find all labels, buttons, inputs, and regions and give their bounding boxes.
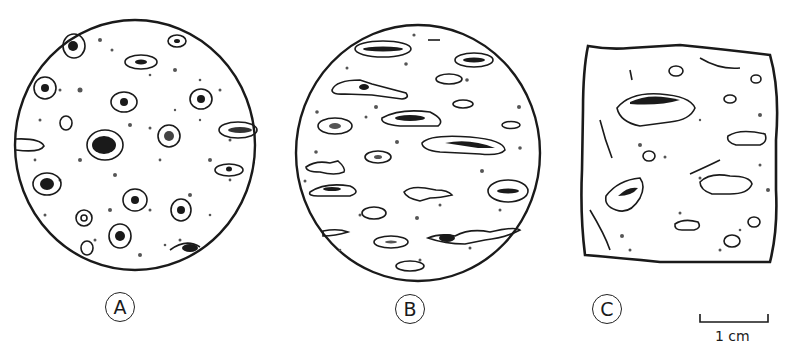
scale-bar-label: 1 cm — [715, 328, 750, 344]
specimen-a — [15, 20, 257, 270]
panel-label-c: C — [592, 294, 622, 324]
panel-label-b: B — [395, 294, 425, 324]
panel-label-a: A — [105, 292, 135, 322]
stipple-dots-a — [34, 38, 232, 257]
vesicles-b — [306, 40, 528, 271]
vesicles-a — [16, 34, 257, 255]
scale-bar — [700, 314, 768, 322]
cavities-c — [590, 58, 766, 250]
specimen-b — [296, 25, 540, 281]
specimen-c — [581, 45, 777, 262]
